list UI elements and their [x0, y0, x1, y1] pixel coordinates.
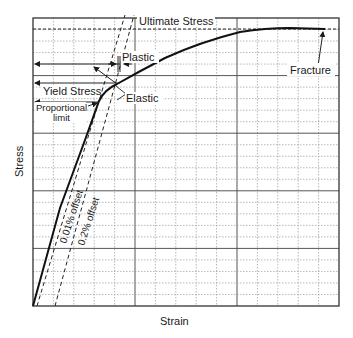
elastic-label: Elastic	[126, 92, 159, 104]
stress-strain-diagram: Ultimate Stress Plastic Yield Stress Ela…	[0, 0, 353, 338]
stress-strain-curve	[33, 28, 325, 306]
limit-label: limit	[53, 112, 70, 123]
elastic-pointer-2	[117, 94, 126, 100]
plastic-label: Plastic	[122, 51, 155, 63]
ultimate-stress-label: Ultimate Stress	[139, 15, 214, 27]
plot-frame	[33, 18, 339, 306]
yield-stress-label: Yield Stress	[43, 85, 102, 97]
proportional-arrow	[88, 103, 97, 106]
x-axis-label: Strain	[160, 315, 189, 327]
y-axis-label: Stress	[13, 145, 25, 177]
fracture-label: Fracture	[290, 64, 331, 76]
offset-001-line	[37, 15, 125, 306]
grid	[33, 18, 339, 306]
